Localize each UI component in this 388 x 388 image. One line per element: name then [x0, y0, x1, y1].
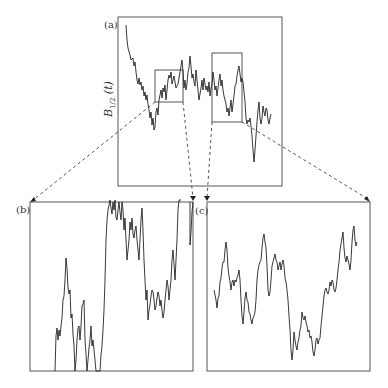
panel-c-label: (c)	[195, 205, 208, 216]
ylabel-symbol: B	[102, 109, 115, 117]
panel-b-frame	[30, 202, 193, 371]
panel-b-label: (b)	[16, 204, 30, 215]
panel-a-ylabel: B1/2 (t)	[102, 81, 117, 117]
trace-a	[126, 25, 271, 162]
trace-c	[214, 226, 357, 360]
ylabel-argument: (t)	[102, 81, 115, 94]
panel-a-frame	[118, 17, 282, 186]
figure-canvas	[0, 0, 388, 388]
arrowheads	[30, 196, 370, 202]
trace-b	[55, 200, 181, 371]
ylabel-subscript: 1/2	[109, 98, 117, 109]
panel-a-label: (a)	[104, 19, 118, 30]
